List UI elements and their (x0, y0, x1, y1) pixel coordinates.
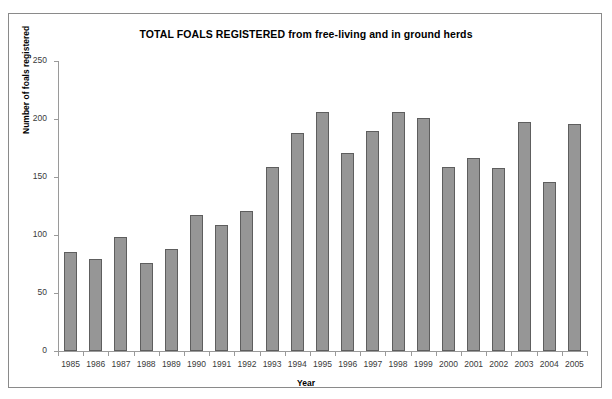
x-tick (159, 351, 160, 356)
x-tick-label: 2003 (511, 359, 536, 369)
x-tick (234, 351, 235, 356)
x-tick (436, 351, 437, 356)
plot-area: 050100150200250 198519861987198819891990… (58, 61, 587, 351)
y-tick: 100 (54, 235, 59, 236)
bar[interactable] (240, 211, 253, 351)
x-tick (360, 351, 361, 356)
x-tick (461, 351, 462, 356)
x-axis-line (58, 351, 587, 352)
bar[interactable] (392, 112, 405, 351)
x-tick (108, 351, 109, 356)
x-tick-label: 1995 (310, 359, 335, 369)
x-tick (285, 351, 286, 356)
y-tick-label: 250 (33, 55, 47, 65)
x-axis-title: Year (9, 378, 603, 388)
x-tick-label: 1990 (184, 359, 209, 369)
x-tick (562, 351, 563, 356)
x-tick-label: 1985 (58, 359, 83, 369)
x-tick (209, 351, 210, 356)
x-tick (511, 351, 512, 356)
x-tick-label: 2001 (461, 359, 486, 369)
y-tick-label: 0 (42, 345, 47, 355)
x-tick (335, 351, 336, 356)
bar[interactable] (64, 252, 77, 351)
x-tick-label: 1999 (411, 359, 436, 369)
x-tick (310, 351, 311, 356)
bar[interactable] (266, 167, 279, 351)
x-tick (537, 351, 538, 356)
y-tick: 200 (54, 119, 59, 120)
x-tick (83, 351, 84, 356)
bar[interactable] (467, 158, 480, 351)
x-tick-label: 1991 (209, 359, 234, 369)
bar[interactable] (114, 237, 127, 351)
x-tick-label: 1996 (335, 359, 360, 369)
bar[interactable] (442, 167, 455, 351)
x-tick (134, 351, 135, 356)
y-axis-line (58, 61, 59, 352)
y-tick: 150 (54, 177, 59, 178)
x-tick-label: 2005 (562, 359, 587, 369)
x-tick-label: 1998 (385, 359, 410, 369)
x-tick-label: 2000 (436, 359, 461, 369)
bar[interactable] (341, 153, 354, 351)
bar[interactable] (89, 259, 102, 351)
y-tick-label: 200 (33, 113, 47, 123)
x-tick (411, 351, 412, 356)
x-tick (58, 351, 59, 356)
bar[interactable] (543, 182, 556, 351)
x-tick (260, 351, 261, 356)
bar[interactable] (568, 124, 581, 351)
x-tick-label: 2002 (486, 359, 511, 369)
x-tick-label: 2004 (537, 359, 562, 369)
bar[interactable] (518, 122, 531, 351)
y-tick: 250 (54, 61, 59, 62)
bar[interactable] (165, 249, 178, 351)
x-tick (587, 351, 588, 356)
x-tick-label: 1992 (234, 359, 259, 369)
bar[interactable] (366, 131, 379, 351)
y-axis-title: Number of foals registered (21, 26, 31, 134)
y-tick-label: 100 (33, 229, 47, 239)
x-tick-label: 1994 (285, 359, 310, 369)
bar[interactable] (291, 133, 304, 351)
chart-frame: TOTAL FOALS REGISTERED from free-living … (8, 13, 602, 388)
x-tick-label: 1993 (260, 359, 285, 369)
bar[interactable] (140, 263, 153, 351)
bar[interactable] (417, 118, 430, 351)
y-tick: 50 (54, 293, 59, 294)
chart-title: TOTAL FOALS REGISTERED from free-living … (9, 28, 603, 40)
x-tick (184, 351, 185, 356)
x-tick-label: 1987 (108, 359, 133, 369)
y-tick-label: 150 (33, 171, 47, 181)
bar[interactable] (215, 225, 228, 351)
x-tick-label: 1989 (159, 359, 184, 369)
x-tick-label: 1988 (134, 359, 159, 369)
x-tick (486, 351, 487, 356)
bar[interactable] (190, 215, 203, 351)
x-tick-label: 1986 (83, 359, 108, 369)
x-tick-label: 1997 (360, 359, 385, 369)
bar[interactable] (316, 112, 329, 351)
x-tick (385, 351, 386, 356)
y-tick-label: 50 (38, 287, 47, 297)
bar[interactable] (492, 168, 505, 351)
